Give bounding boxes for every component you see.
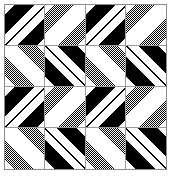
sub-tile-gray-white-down-left: [86, 128, 126, 169]
stripe-mask-gray-white: [45, 5, 85, 45]
stripe-mask-gray-white: [126, 5, 166, 45]
stripe-fill-black-white: [86, 5, 125, 45]
stripe-mask-gray-white: [86, 128, 125, 169]
sub-tile-black-white-down-right: [5, 5, 45, 46]
sub-tile-black-white-down-right: [86, 5, 126, 46]
quilt-plate: [4, 4, 167, 170]
quilt-block-top-right: [86, 5, 167, 87]
stripe-mask-gray-white: [5, 46, 44, 87]
sub-tile-black-white-down-left: [126, 46, 166, 87]
stripe-fill-black-white: [126, 46, 166, 87]
stripe-fill-black-white: [5, 87, 44, 127]
sub-tile-gray-white-down-right: [45, 87, 85, 128]
sub-tile-black-white-down-right: [5, 87, 45, 128]
quilt-grid: [5, 5, 166, 169]
sub-tile-black-white-down-left: [126, 128, 166, 169]
stripe-mask-gray-white: [5, 128, 44, 169]
quilt-block-bottom-right: [86, 87, 167, 169]
quilt-block-bottom-left: [5, 87, 86, 169]
stripe-mask-gray-white: [45, 87, 85, 127]
stripe-fill-black-white: [5, 5, 44, 45]
stripe-fill-black-white: [126, 128, 166, 169]
stripe-fill-black-white: [45, 46, 85, 87]
sub-tile-black-white-down-left: [45, 46, 85, 87]
sub-tile-gray-white-down-right: [45, 5, 85, 46]
quilt-block-top-left: [5, 5, 86, 87]
sub-tile-black-white-down-right: [86, 87, 126, 128]
sub-tile-gray-white-down-right: [126, 5, 166, 46]
stripe-fill-black-white: [86, 87, 125, 127]
sub-tile-gray-white-down-right: [126, 87, 166, 128]
stripe-mask-gray-white: [126, 87, 166, 127]
stripe-mask-gray-white: [86, 46, 125, 87]
pattern-canvas: Quilt block pattern swatch: [0, 0, 173, 177]
sub-tile-gray-white-down-left: [86, 46, 126, 87]
sub-tile-black-white-down-left: [45, 128, 85, 169]
stripe-fill-black-white: [45, 128, 85, 169]
sub-tile-gray-white-down-left: [5, 128, 45, 169]
sub-tile-gray-white-down-left: [5, 46, 45, 87]
